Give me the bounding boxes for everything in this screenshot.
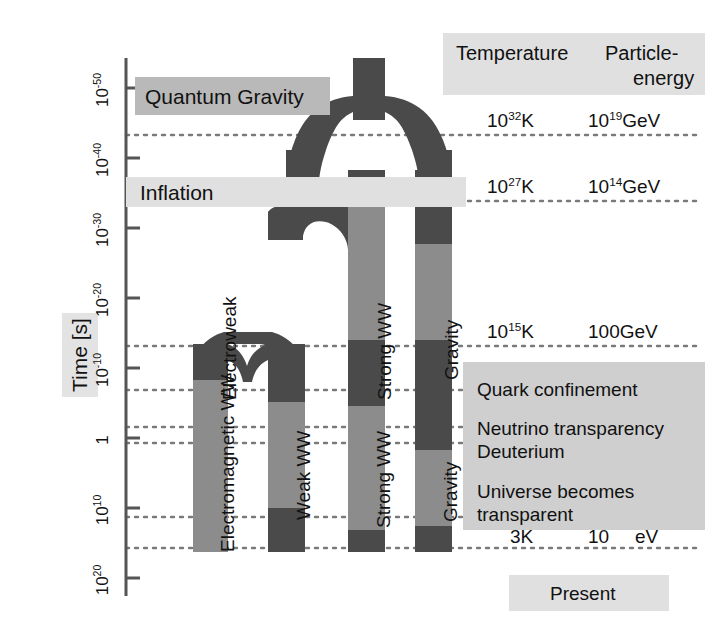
era-label-quantum-gravity: Quantum Gravity xyxy=(145,85,304,109)
scale-energy-1: 1019GeV xyxy=(588,110,660,132)
present-box: Present xyxy=(509,575,669,611)
force-label-strong-upper-text: Strong WW xyxy=(374,303,395,400)
event-quark-confinement: Quark confinement xyxy=(477,379,638,401)
era-band-quantum-gravity: Quantum Gravity xyxy=(135,77,330,115)
scale-temp-1: 1032K xyxy=(487,110,534,132)
events-box: Quark confinement Neutrino transparency … xyxy=(463,362,705,530)
gravity-seg-dark-3 xyxy=(415,526,452,552)
present-label: Present xyxy=(550,583,615,605)
force-label-weak: Weak WW xyxy=(293,431,315,520)
event-deuterium: Deuterium xyxy=(477,441,565,463)
header-particle-energy-line1: Particle- xyxy=(605,42,678,65)
force-label-gravity-upper-text: Gravity xyxy=(441,320,462,380)
force-label-weak-text: Weak WW xyxy=(293,431,314,520)
force-label-gravity-lower: Gravity xyxy=(440,462,462,522)
figure-canvas: Time [s] 10-50 10-40 10-30 10-20 10-10 1… xyxy=(0,0,721,626)
header-particle-energy-line2: energy xyxy=(633,67,694,90)
force-label-electromagnetic-text: Electromagnetic WW xyxy=(217,375,238,552)
scale-temp-4: 3K xyxy=(510,526,533,548)
y-tick-label-5: 10-10 xyxy=(93,335,113,405)
era-label-inflation: Inflation xyxy=(140,181,214,205)
scale-temp-3: 1015K xyxy=(487,321,534,343)
scale-header-box: Temperature Particle- energy xyxy=(443,33,705,95)
gut-split xyxy=(268,206,358,250)
force-label-strong-lower: Strong WW xyxy=(373,431,395,528)
strong-seg-dark-lower xyxy=(348,530,385,552)
y-tick-label-4: 10-20 xyxy=(93,265,113,335)
y-tick-label-7: 1010 xyxy=(93,475,113,545)
scale-energy-2: 1014GeV xyxy=(588,176,660,198)
scale-temp-2: 1027K xyxy=(487,176,534,198)
era-band-inflation: Inflation xyxy=(126,177,466,207)
event-universe-transparent-line2: transparent xyxy=(477,504,573,526)
scale-energy-4-value: 10 xyxy=(588,526,609,548)
force-label-gravity-lower-text: Gravity xyxy=(440,462,461,522)
gut-split-shape xyxy=(268,206,358,250)
scale-energy-3: 100GeV xyxy=(588,321,658,343)
y-tick-label-6: 1 xyxy=(93,405,113,475)
y-axis xyxy=(126,58,140,596)
force-label-strong-upper: Strong WW xyxy=(374,303,396,400)
weak-seg-dark-top xyxy=(268,380,305,402)
event-neutrino-transparency: Neutrino transparency xyxy=(477,418,664,440)
force-label-strong-lower-text: Strong WW xyxy=(373,431,394,528)
y-tick-label-3: 10-30 xyxy=(93,195,113,265)
event-universe-transparent-line1: Universe becomes xyxy=(477,481,634,503)
force-label-electromagnetic: Electromagnetic WW xyxy=(217,375,239,552)
y-tick-label-1: 10-50 xyxy=(93,55,113,125)
y-tick-label-2: 10-40 xyxy=(93,125,113,195)
header-temperature: Temperature xyxy=(456,42,568,65)
scale-energy-4-unit: eV xyxy=(635,526,658,548)
gravity-seg-dark-1 xyxy=(415,206,452,244)
y-tick-label-8: 1020 xyxy=(93,545,113,615)
unified-force-stem xyxy=(353,58,385,120)
y-axis-title-text: Time [s] xyxy=(68,318,91,392)
force-label-gravity-upper: Gravity xyxy=(441,320,463,380)
